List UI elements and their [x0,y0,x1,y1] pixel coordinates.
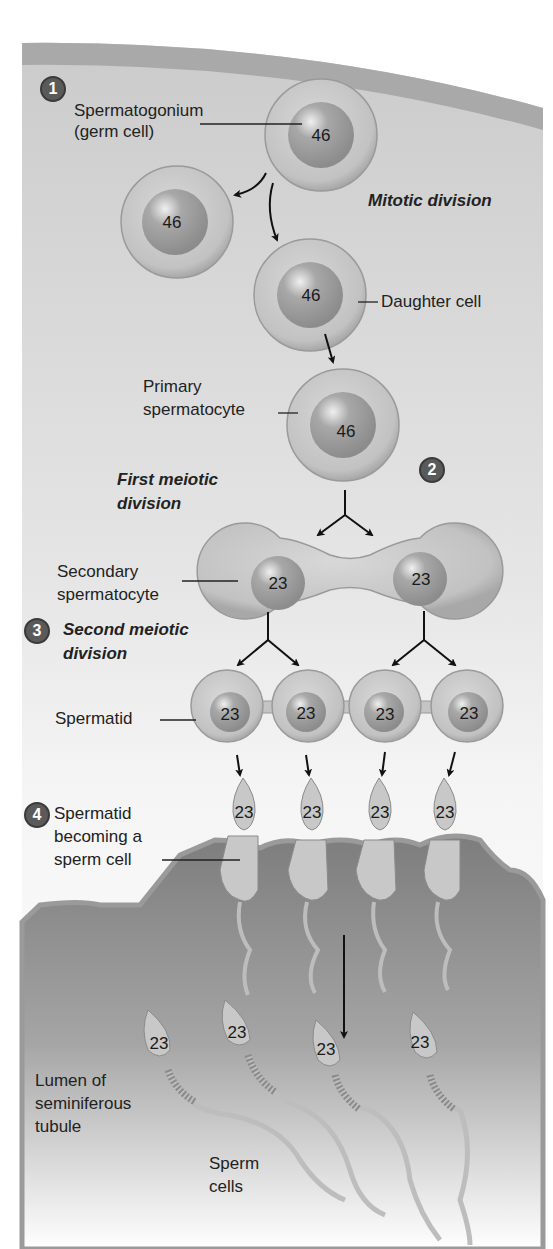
label-becoming-3: sperm cell [54,850,131,870]
count-spermatid-1: 23 [221,705,240,724]
count-spermatid-4: 23 [460,704,479,723]
count-daughter-right: 46 [302,286,321,305]
count-spermatogonium: 46 [312,126,331,145]
count-spermatid-2: 23 [297,704,316,723]
label-lumen-1: Lumen of [35,1071,106,1091]
count-becoming-1: 23 [235,803,254,822]
label-primary: Primary [143,377,202,397]
label-lumen-3: tubule [35,1117,81,1137]
label-germ-cell: (germ cell) [74,122,154,142]
count-sperm-2: 23 [228,1023,247,1042]
label-daughter-cell: Daughter cell [381,292,481,312]
label-secondary: Secondary [57,562,138,582]
step-badge-3: 3 [24,618,50,644]
label-primary-spermatocyte: spermatocyte [143,400,245,420]
count-becoming-2: 23 [303,803,322,822]
step-badge-4: 4 [24,802,50,828]
count-sperm-4: 23 [411,1033,430,1052]
count-sperm-1: 23 [150,1034,169,1053]
step-badge-1: 1 [40,76,66,102]
spermatogenesis-diagram: 46 46 46 46 23 23 23 23 23 23 23 23 23 2… [0,0,553,1249]
label-lumen-2: seminiferous [35,1094,131,1114]
label-second-meiotic-division: division [63,644,127,664]
count-primary: 46 [337,422,356,441]
label-sperm: Sperm [209,1154,259,1174]
label-sperm-cells: cells [209,1177,243,1197]
count-sperm-3: 23 [317,1040,336,1059]
label-becoming-2: becoming a [54,827,142,847]
count-becoming-3: 23 [371,803,390,822]
count-secondary-1: 23 [269,574,288,593]
label-becoming-1: Spermatid [54,804,131,824]
count-daughter-left: 46 [163,213,182,232]
label-spermatogonium: Spermatogonium [74,101,203,121]
label-second-meiotic: Second meiotic [63,620,189,640]
label-first-meiotic-division: division [117,494,181,514]
count-becoming-4: 23 [436,803,455,822]
label-first-meiotic: First meiotic [117,470,218,490]
label-mitotic-division: Mitotic division [368,191,492,211]
step-badge-2: 2 [419,457,445,483]
label-secondary-spermatocyte: spermatocyte [57,585,159,605]
count-secondary-2: 23 [412,570,431,589]
label-spermatid: Spermatid [55,709,132,729]
count-spermatid-3: 23 [376,705,395,724]
